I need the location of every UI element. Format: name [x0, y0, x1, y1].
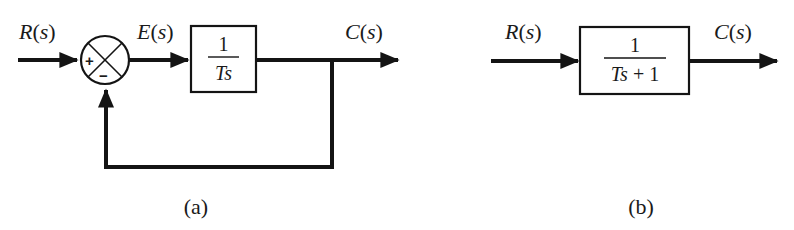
block-diagrams: R(s) + − E(s) 1 Ts C(s) (a) [0, 0, 794, 230]
block-a-numerator: 1 [219, 33, 229, 55]
transfer-block-b: 1 Ts + 1 [580, 27, 689, 94]
block-b-numerator: 1 [630, 34, 640, 56]
output-label-c-b: C(s) [714, 19, 752, 44]
input-label-r-b: R(s) [504, 19, 542, 44]
input-label-r: R(s) [18, 19, 56, 44]
plus-sign: + [85, 52, 94, 69]
caption-a: (a) [184, 194, 208, 219]
block-a-denominator: Ts [215, 62, 232, 84]
caption-b: (b) [628, 194, 654, 219]
summing-junction: + − [81, 36, 129, 84]
transfer-block-a: 1 Ts [191, 26, 256, 92]
diagram-b: R(s) 1 Ts + 1 C(s) (b) [491, 19, 777, 219]
block-b-denominator: Ts + 1 [611, 63, 659, 85]
error-label-e: E(s) [136, 19, 174, 44]
diagram-a: R(s) + − E(s) 1 Ts C(s) (a) [18, 19, 398, 219]
output-label-c: C(s) [345, 19, 383, 44]
minus-sign: − [99, 67, 108, 84]
